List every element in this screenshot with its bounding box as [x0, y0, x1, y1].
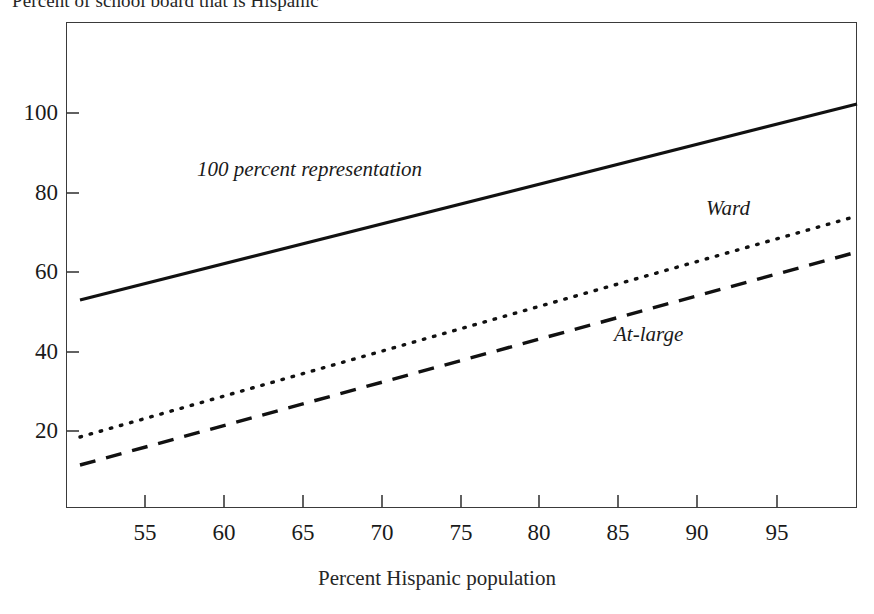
x-tick-label: 70 — [352, 520, 412, 546]
x-tick-label: 55 — [115, 520, 175, 546]
x-axis-title: Percent Hispanic population — [0, 566, 874, 591]
y-tick-label: 80 — [8, 180, 58, 206]
x-tick-label: 75 — [431, 520, 491, 546]
x-tick-label: 85 — [588, 520, 648, 546]
x-tick-label: 80 — [509, 520, 569, 546]
series-label-at-large: At-large — [614, 322, 683, 347]
y-tick-label: 20 — [8, 418, 58, 444]
y-tick-label: 100 — [8, 100, 58, 126]
chart-canvas: Percent of school board that is Hispanic… — [0, 0, 874, 614]
y-tick-label: 60 — [8, 259, 58, 285]
x-tick-label: 90 — [667, 520, 727, 546]
page-title: Percent of school board that is Hispanic — [12, 0, 319, 12]
x-tick-label: 60 — [194, 520, 254, 546]
series-label-100-percent-representation: 100 percent representation — [197, 157, 422, 182]
plot-frame — [66, 22, 857, 508]
y-tick-label: 40 — [8, 339, 58, 365]
series-label-ward: Ward — [706, 196, 750, 221]
x-tick-label: 65 — [273, 520, 333, 546]
x-tick-label: 95 — [747, 520, 807, 546]
